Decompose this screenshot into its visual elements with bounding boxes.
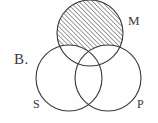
item-label-b: B. xyxy=(14,52,29,67)
circle-label-p: P xyxy=(137,98,144,110)
circle-label-s: S xyxy=(33,98,40,110)
venn-diagram-figure: B. M S P xyxy=(0,0,158,123)
circle-label-m: M xyxy=(128,14,140,27)
